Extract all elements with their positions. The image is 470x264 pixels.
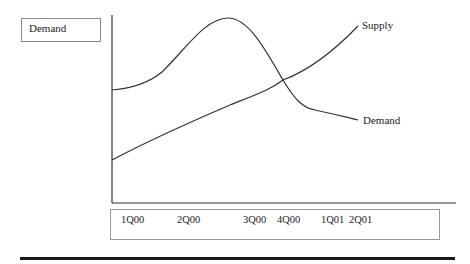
demand-curve [112, 18, 358, 120]
x-tick-label: 2Q00 [177, 214, 200, 225]
bottom-rule [20, 257, 455, 260]
x-tick-label: 2Q01 [349, 214, 372, 225]
x-tick-label: 1Q00 [121, 214, 144, 225]
supply-series-label: Supply [362, 19, 393, 31]
x-axis-labels-box: 1Q00 2Q00 3Q00 4Q00 1Q01 2Q01 [110, 209, 440, 240]
x-tick-label: 4Q00 [277, 214, 300, 225]
supply-curve [112, 26, 358, 160]
x-tick-label: 3Q00 [243, 214, 266, 225]
x-tick-label: 1Q01 [321, 214, 344, 225]
demand-series-label: Demand [363, 114, 400, 126]
